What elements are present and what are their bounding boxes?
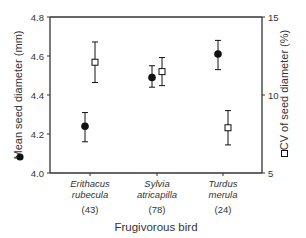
data-points	[81, 40, 231, 145]
category-genus: Turdus	[209, 178, 238, 189]
legend-filled-circle-icon	[16, 153, 23, 160]
right-y-axis-label-text: CV of seed diameter (%)	[278, 30, 290, 150]
left-tick-label: 4.2	[31, 129, 44, 140]
category-sample-size: (43)	[82, 204, 99, 215]
filled-circle-marker-icon	[81, 122, 89, 130]
open-square-marker-icon	[92, 59, 98, 65]
right-y-axis-ticks: 51015	[262, 12, 279, 179]
plot-axes	[50, 17, 262, 173]
left-tick-label: 4.4	[31, 90, 44, 101]
open-square-marker-icon	[225, 125, 231, 131]
right-tick-label: 5	[268, 168, 273, 179]
category-sample-size: (24)	[215, 204, 232, 215]
category-species: atricapilla	[137, 189, 177, 200]
left-tick-label: 4.0	[31, 168, 44, 179]
filled-circle-marker-icon	[148, 74, 156, 82]
left-y-axis-label: Mean seed diameter (mm)	[12, 31, 24, 160]
category-sample-size: (78)	[149, 204, 166, 215]
category-species: rubecula	[72, 189, 108, 200]
category-species: merula	[208, 189, 237, 200]
x-axis-categories: Erithacusrubecula(43)Sylviaatricapilla(7…	[70, 173, 237, 215]
left-y-axis-ticks: 4.04.24.44.64.8	[31, 12, 50, 179]
right-y-axis-label: CV of seed diameter (%)	[278, 30, 290, 150]
x-axis-label: Frugivorous bird	[114, 221, 197, 233]
category-genus: Sylvia	[144, 178, 169, 189]
left-tick-label: 4.6	[31, 51, 44, 62]
open-square-marker-icon	[159, 69, 165, 75]
right-tick-label: 15	[268, 12, 279, 23]
filled-circle-marker-icon	[214, 50, 222, 58]
right-tick-label: 10	[268, 90, 279, 101]
legend-open-square-icon	[282, 151, 288, 157]
seed-diameter-chart: 4.04.24.44.64.8 51015 Erithacusrubecula(…	[0, 0, 306, 238]
left-y-axis-label-text: Mean seed diameter (mm)	[12, 31, 24, 160]
left-tick-label: 4.8	[31, 12, 44, 23]
category-genus: Erithacus	[70, 178, 110, 189]
